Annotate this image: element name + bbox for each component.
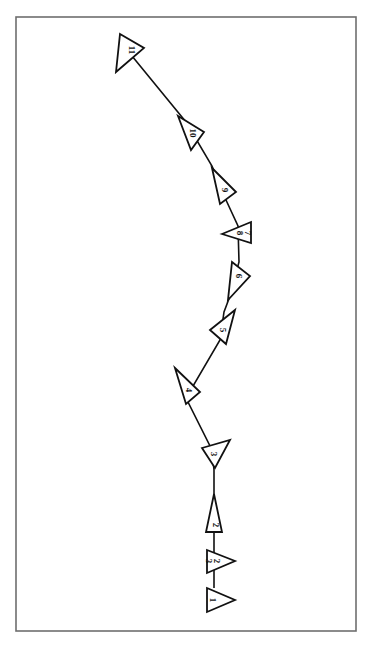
- triangle-icon: [228, 262, 250, 300]
- marker-label: 4: [184, 388, 194, 393]
- marker-label: 1: [208, 598, 218, 603]
- triangle-marker-m3: 3: [202, 440, 230, 468]
- triangle-icon: [212, 168, 236, 204]
- marker-group: 111097865432231: [116, 34, 253, 612]
- diagram-canvas: 111097865432231: [0, 0, 369, 655]
- marker-label: 10: [188, 129, 198, 139]
- triangle-marker-m9: 9: [212, 168, 236, 204]
- triangle-marker-m6: 6: [228, 262, 250, 300]
- triangle-marker-m2: 2: [206, 494, 222, 532]
- triangle-icon: [175, 368, 200, 404]
- diagram-frame: [16, 17, 356, 631]
- marker-label: 78: [235, 231, 253, 236]
- triangle-marker-m5: 5: [210, 310, 235, 344]
- triangle-marker-m23: 23: [204, 550, 235, 573]
- marker-label: 5: [218, 328, 228, 333]
- marker-label: 9: [220, 188, 230, 193]
- triangle-marker-m4: 4: [175, 368, 200, 404]
- marker-label: 2: [211, 523, 221, 528]
- marker-label: 3: [209, 452, 219, 457]
- marker-label: 23: [204, 559, 222, 564]
- marker-label: 6: [234, 274, 244, 279]
- triangle-marker-m1: 1: [207, 588, 235, 612]
- marker-label: 11: [127, 46, 137, 55]
